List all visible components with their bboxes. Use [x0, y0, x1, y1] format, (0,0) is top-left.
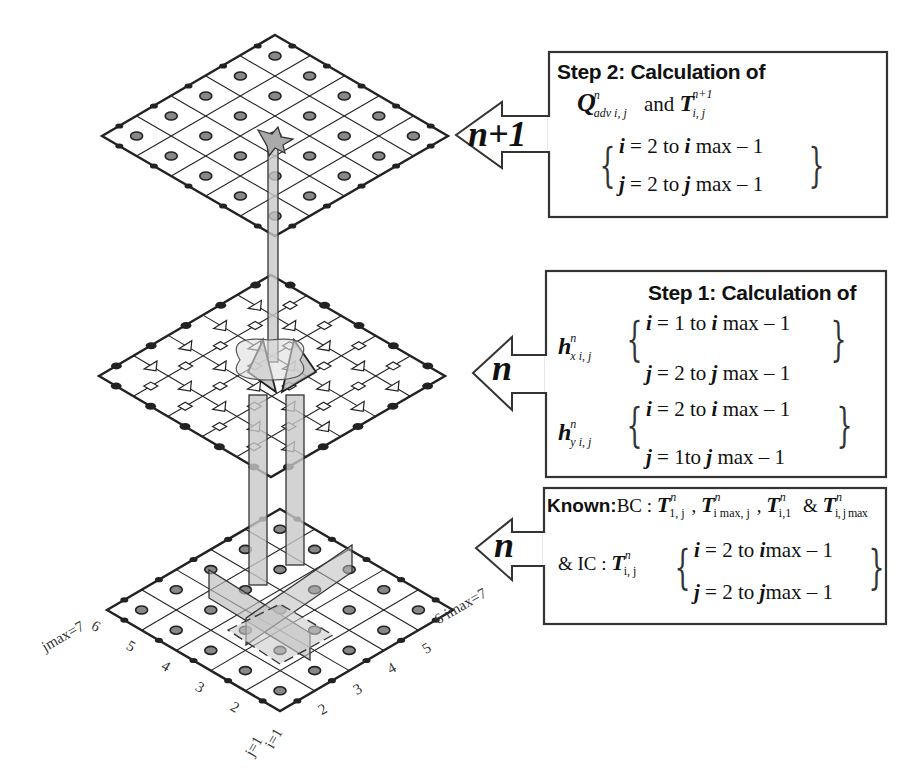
cell-node: [269, 92, 281, 100]
boundary-node: [397, 638, 405, 643]
boundary-node: [363, 557, 371, 562]
cell-node: [309, 667, 321, 675]
cell-node: [131, 132, 143, 140]
cell-node: [274, 566, 286, 574]
cell-node: [373, 112, 385, 120]
known-range-j: j = 2 to jmax – 1: [694, 580, 833, 605]
step1-box: Step 1: Calculation of hnx i, j { i = 1 …: [546, 271, 886, 477]
boundary-node: [328, 678, 336, 683]
boundary-node: [285, 282, 296, 289]
boundary-node: [224, 537, 232, 542]
and-word: and: [644, 92, 674, 116]
cell-node: [200, 92, 212, 100]
boundary-node: [155, 638, 163, 643]
hy-left-brace: {: [627, 402, 643, 448]
boundary-node: [155, 577, 163, 582]
cell-node: [407, 132, 419, 140]
step2-range-j: j = 2 to j max – 1: [619, 172, 763, 197]
hx-symbol-group: hnx i, j: [558, 333, 598, 360]
boundary-node: [190, 658, 198, 663]
q-sup: n: [594, 88, 600, 102]
boundary-node: [422, 362, 433, 369]
step2-range-i: i = 2 to i max – 1: [619, 134, 763, 159]
known-bc-line: Known:BC : Tn1, j, Tni max, j, Tni,1 & T…: [547, 492, 874, 518]
hx-range-i: i = 1 to i max – 1: [646, 311, 790, 336]
boundary-node: [358, 83, 366, 88]
boundary-node: [358, 183, 366, 188]
cell-node: [234, 192, 246, 200]
cell-node: [304, 72, 316, 80]
cell-node: [378, 586, 390, 594]
cell-node: [234, 152, 246, 160]
column-top-to-middle: [268, 148, 278, 362]
known-ic-line: & IC : Tni, j: [558, 550, 643, 576]
known-left-brace: {: [675, 544, 691, 590]
cell-node: [200, 132, 212, 140]
cell-node: [170, 586, 182, 594]
boundary-node: [363, 658, 371, 663]
boundary-node: [427, 143, 435, 148]
cell-node: [269, 52, 281, 60]
cell-node: [378, 626, 390, 634]
boundary-node: [354, 322, 365, 329]
cell-node: [205, 646, 217, 654]
known-range-i: i = 2 to imax – 1: [694, 538, 833, 563]
bc-label: BC :: [617, 495, 657, 516]
arrow-label-n-plus-1: n+1: [468, 113, 527, 155]
boundary-node: [115, 123, 123, 128]
cell-node: [170, 626, 182, 634]
known-box: Known:BC : Tn1, j, Tni max, j, Tni,1 & T…: [544, 488, 886, 624]
boundary-node: [392, 103, 400, 108]
boundary-node: [145, 403, 156, 410]
cell-node: [274, 525, 286, 533]
boundary-node: [318, 443, 329, 450]
cell-node: [274, 687, 286, 695]
boundary-node: [387, 403, 398, 410]
cell-node: [165, 112, 177, 120]
arrow-label-n-middle: n: [492, 347, 512, 389]
column-middle-left: [249, 395, 267, 585]
cell-node: [412, 606, 424, 614]
boundary-node: [214, 443, 225, 450]
cell-node: [338, 172, 350, 180]
boundary-node: [111, 383, 122, 390]
column-middle-right: [286, 395, 304, 565]
boundary-node: [185, 183, 193, 188]
boundary-node: [115, 143, 123, 148]
boundary-node: [288, 223, 296, 228]
boundary-node: [150, 163, 158, 168]
cell-node: [304, 192, 316, 200]
cell-node: [205, 606, 217, 614]
boundary-node: [224, 678, 232, 683]
cell-node: [165, 152, 177, 160]
known-heading: Known:: [547, 495, 617, 516]
hy-range-j: j = 1to j max – 1: [646, 445, 785, 470]
boundary-node: [259, 698, 267, 703]
step2-quantities: Qnadv i, j and Tn+1i, j: [577, 88, 727, 118]
known-right-brace: }: [869, 544, 885, 590]
boundary-node: [392, 163, 400, 168]
boundary-node: [181, 322, 192, 329]
boundary-node: [432, 597, 440, 602]
cell-node: [338, 132, 350, 140]
hx-left-brace: {: [627, 316, 643, 362]
boundary-node: [254, 223, 262, 228]
boundary-node: [219, 203, 227, 208]
ic-label: & IC :: [558, 553, 611, 574]
cell-node: [234, 72, 246, 80]
boundary-node: [288, 43, 296, 48]
cell-node: [234, 112, 246, 120]
cell-node: [136, 606, 148, 614]
boundary-node: [250, 282, 261, 289]
boundary-node: [111, 362, 122, 369]
cell-node: [309, 545, 321, 553]
cell-node: [343, 606, 355, 614]
boundary-node: [293, 698, 301, 703]
boundary-node: [215, 302, 226, 309]
hy-symbol-group: hny i, j: [558, 419, 598, 446]
t-sup: n+1: [692, 87, 712, 101]
cell-node: [304, 152, 316, 160]
boundary-node: [323, 63, 331, 68]
boundary-node: [185, 83, 193, 88]
cell-node: [373, 152, 385, 160]
